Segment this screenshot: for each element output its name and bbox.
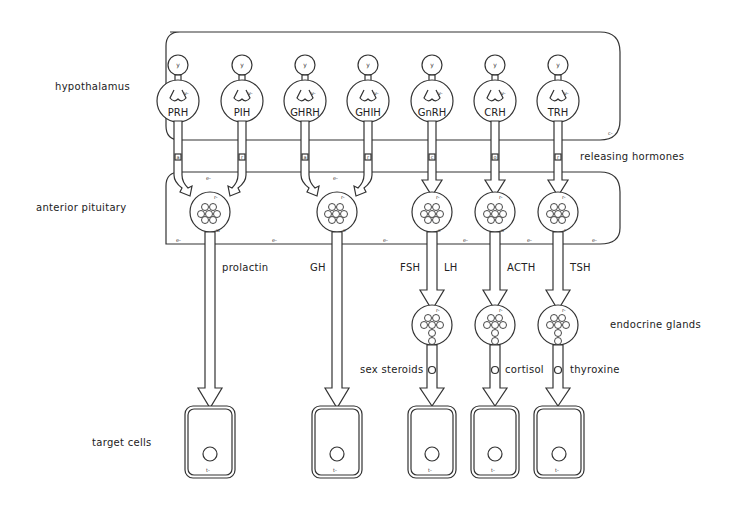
svg-text:t-: t- (206, 467, 210, 473)
svg-text:r-: r- (562, 194, 566, 200)
svg-text:w: w (216, 227, 220, 233)
svg-text:y: y (493, 61, 497, 69)
label-thyroxine: thyroxine (570, 364, 620, 375)
label-anterior-pituitary: anterior pituitary (36, 202, 126, 213)
svg-text:GnRH: GnRH (418, 107, 447, 118)
svg-text:t-: t- (428, 467, 432, 473)
svg-text:r-: r- (562, 307, 566, 313)
label-tsh: TSH (569, 262, 591, 273)
svg-text:a: a (176, 154, 179, 160)
label-prolactin: prolactin (222, 262, 269, 273)
svg-text:e-: e- (333, 175, 338, 181)
svg-text:c: c (438, 227, 441, 233)
svg-text:t-: t- (491, 467, 495, 473)
svg-text:v-: v- (564, 90, 569, 96)
target-cells: t- t- t- t- t- (185, 406, 584, 478)
svg-text:e-: e- (527, 237, 532, 243)
svg-text:o: o (501, 227, 504, 233)
svg-text:t-: t- (333, 467, 337, 473)
svg-text:CRH: CRH (484, 107, 505, 118)
label-cortisol: cortisol (505, 364, 544, 375)
label-lh: LH (444, 262, 458, 273)
svg-text:e-: e- (272, 237, 277, 243)
svg-text:e-: e- (463, 237, 468, 243)
svg-text:r-: r- (341, 194, 345, 200)
label-endocrine-glands: endocrine glands (610, 319, 701, 330)
svg-text:a: a (303, 154, 306, 160)
svg-text:v-: v- (438, 90, 443, 96)
svg-text:c-: c- (608, 130, 613, 136)
svg-text:r-: r- (499, 307, 503, 313)
svg-text:PRH: PRH (168, 107, 189, 118)
svg-text:e-: e- (592, 237, 597, 243)
svg-text:o: o (493, 154, 496, 160)
svg-text:y: y (176, 61, 180, 69)
svg-text:e-: e- (176, 237, 181, 243)
svg-text:e-: e- (206, 175, 211, 181)
label-sex-steroids: sex steroids (360, 364, 424, 375)
label-hypothalamus: hypothalamus (55, 81, 130, 92)
svg-text:e: e (343, 227, 346, 233)
svg-text:GHIH: GHIH (355, 107, 381, 118)
svg-text:v-: v- (184, 90, 189, 96)
label-fsh: FSH (400, 262, 420, 273)
svg-text:v-: v- (501, 90, 506, 96)
svg-text:GHRH: GHRH (290, 107, 320, 118)
svg-text:PIH: PIH (234, 107, 251, 118)
svg-text:r-: r- (436, 194, 440, 200)
svg-text:TRH: TRH (547, 107, 569, 118)
svg-text:r-: r- (214, 194, 218, 200)
svg-text:v-: v- (374, 90, 379, 96)
svg-text:v-: v- (248, 90, 253, 96)
svg-text:r-: r- (436, 307, 440, 313)
svg-text:v-: v- (311, 90, 316, 96)
portal-stalks: a r a r c o r (174, 121, 568, 196)
label-gh: GH (310, 262, 326, 273)
svg-text:y: y (240, 61, 244, 69)
svg-text:y: y (303, 61, 307, 69)
svg-text:e-: e- (383, 237, 388, 243)
svg-text:t-: t- (555, 467, 559, 473)
svg-text:r-: r- (499, 194, 503, 200)
endocrine-cells: r- r- r- (412, 305, 578, 406)
svg-text:y: y (556, 61, 560, 69)
label-target-cells: target cells (92, 437, 152, 448)
svg-text:y: y (366, 61, 370, 69)
label-acth: ACTH (507, 262, 535, 273)
svg-text:c: c (431, 154, 434, 160)
svg-text:y: y (430, 61, 434, 69)
label-releasing-hormones: releasing hormones (580, 151, 684, 162)
hormone-axis-diagram: PRH PIH GHRH GHIH GnRH (0, 0, 737, 506)
